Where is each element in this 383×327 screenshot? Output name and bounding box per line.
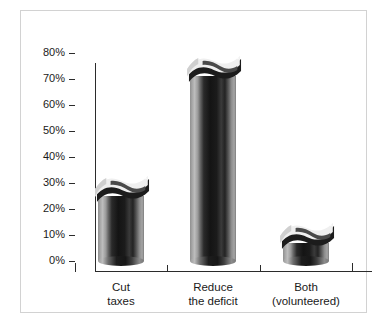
- value-axis-tick: [69, 235, 75, 236]
- category-axis-line: [95, 271, 372, 272]
- category-label-line: Reduce: [167, 280, 259, 294]
- category-label-line: Cut: [75, 280, 167, 294]
- figure-frame: 0%10%20%30%40%50%60%70%80%: [20, 10, 367, 313]
- value-axis-tick-label: 80%: [21, 47, 65, 58]
- value-axis-line: [95, 63, 96, 272]
- value-axis-tick-label: 30%: [21, 177, 65, 188]
- bar-base-ellipse: [98, 256, 144, 266]
- bar-base-ellipse: [190, 256, 236, 266]
- figure-canvas: 0%10%20%30%40%50%60%70%80%: [0, 0, 383, 327]
- bar: [283, 243, 329, 261]
- bar-ribbon-cap: [277, 222, 339, 252]
- category-label-line: taxes: [75, 294, 167, 308]
- value-axis-tick-label: 70%: [21, 73, 65, 84]
- bar-body: [190, 76, 236, 261]
- category-label: Reducethe deficit: [167, 280, 259, 308]
- value-axis-tick: [69, 157, 75, 158]
- category-label: Both(volunteered): [260, 280, 352, 308]
- value-axis-tick-label: 20%: [21, 203, 65, 214]
- category-label: Cuttaxes: [75, 280, 167, 308]
- category-axis-endcap: [352, 263, 353, 272]
- value-axis-tick-label: 40%: [21, 151, 65, 162]
- value-axis-tick: [69, 131, 75, 132]
- value-axis-tick-label: 50%: [21, 125, 65, 136]
- bar: [190, 76, 236, 261]
- value-axis-tick-label: 10%: [21, 229, 65, 240]
- value-axis-tick-label: 0%: [21, 255, 65, 266]
- bar-base-ellipse: [283, 256, 329, 266]
- category-label-line: (volunteered): [260, 294, 352, 308]
- bar-body: [98, 196, 144, 261]
- value-axis-tick: [69, 105, 75, 106]
- value-axis-tick: [69, 209, 75, 210]
- category-axis-tick: [167, 265, 168, 272]
- value-axis-tick: [69, 261, 75, 262]
- category-axis-tick: [260, 265, 261, 272]
- bar-ribbon-cap: [184, 55, 246, 85]
- value-axis-tick: [69, 79, 75, 80]
- category-axis-endcap: [75, 263, 76, 272]
- category-label-line: Both: [260, 280, 352, 294]
- bar: [98, 196, 144, 261]
- value-axis-tick: [69, 53, 75, 54]
- value-axis-tick: [69, 183, 75, 184]
- bar-ribbon-cap: [92, 175, 154, 205]
- category-label-line: the deficit: [167, 294, 259, 308]
- value-axis-tick-label: 60%: [21, 99, 65, 110]
